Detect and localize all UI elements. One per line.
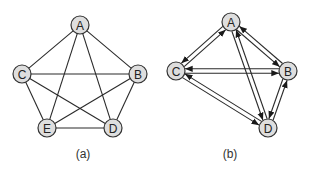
panel-a-nodes: ABCDE bbox=[13, 16, 147, 137]
edge-a-b bbox=[87, 31, 131, 68]
graph-diagram-canvas: ABCDE (a) ABCD (b) bbox=[0, 0, 310, 172]
node-b: B bbox=[129, 65, 147, 83]
node-a: A bbox=[222, 13, 240, 31]
node-label: B bbox=[284, 65, 292, 79]
node-label: C bbox=[172, 65, 181, 79]
edge-d-c bbox=[185, 74, 262, 122]
node-b: B bbox=[279, 62, 297, 80]
edge-c-a bbox=[184, 30, 226, 67]
node-label: C bbox=[18, 68, 27, 82]
panel-b-caption: (b) bbox=[223, 147, 238, 161]
edge-a-d bbox=[232, 31, 263, 120]
node-c: C bbox=[167, 62, 185, 80]
node-d: D bbox=[259, 119, 277, 137]
edge-a-c bbox=[181, 26, 223, 63]
edge-a-c bbox=[29, 31, 73, 68]
node-label: E bbox=[43, 122, 51, 136]
node-label: A bbox=[227, 16, 235, 30]
node-d: D bbox=[104, 119, 122, 137]
panel-a-edges bbox=[26, 31, 134, 128]
edge-c-e bbox=[26, 82, 43, 120]
node-c: C bbox=[13, 65, 31, 83]
node-label: D bbox=[109, 122, 118, 136]
edge-b-d bbox=[117, 82, 134, 120]
node-label: B bbox=[134, 68, 142, 82]
node-e: E bbox=[38, 119, 56, 137]
panel-a-undirected-graph: ABCDE (a) bbox=[13, 16, 147, 161]
node-a: A bbox=[71, 16, 89, 34]
edge-c-d bbox=[30, 79, 106, 124]
panel-a-caption: (a) bbox=[76, 147, 91, 161]
edge-c-d bbox=[182, 78, 259, 126]
panel-b-directed-graph: ABCD (b) bbox=[167, 13, 297, 161]
node-label: D bbox=[264, 122, 273, 136]
edge-b-e bbox=[55, 79, 131, 124]
node-label: A bbox=[76, 19, 84, 33]
panel-b-edges bbox=[181, 26, 287, 125]
